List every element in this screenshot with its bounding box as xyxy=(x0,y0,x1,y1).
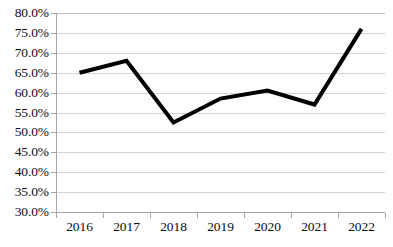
line-chart: 80.0%75.0%70.0%65.0%60.0%55.0%50.0%45.0%… xyxy=(0,0,393,247)
x-axis-tick-mark xyxy=(150,213,151,218)
x-axis-tick-label: 2021 xyxy=(301,219,328,235)
x-axis-tick-label: 2016 xyxy=(66,219,93,235)
x-axis-tick-mark xyxy=(385,213,386,218)
x-axis-tick-mark xyxy=(197,213,198,218)
x-axis-tick-label: 2017 xyxy=(113,219,140,235)
x-axis-tick-label: 2019 xyxy=(207,219,234,235)
x-axis-tick-mark xyxy=(244,213,245,218)
x-axis-tick-mark xyxy=(291,213,292,218)
x-axis-tick-label: 2022 xyxy=(348,219,375,235)
x-axis-tick-mark xyxy=(56,213,57,218)
x-axis-tick-mark xyxy=(103,213,104,218)
x-axis-tick-marks xyxy=(0,0,393,247)
x-axis-tick-label: 2020 xyxy=(254,219,281,235)
x-axis-tick-mark xyxy=(338,213,339,218)
x-axis-tick-label: 2018 xyxy=(160,219,187,235)
x-axis-tick-labels: 2016201720182019202020212022 xyxy=(0,219,393,247)
